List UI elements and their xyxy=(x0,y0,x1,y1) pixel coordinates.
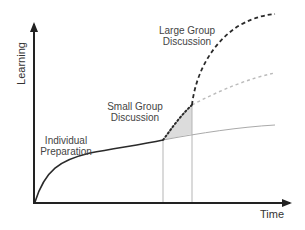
large-group-discussion-label: Large Group Discussion xyxy=(156,25,218,47)
y-axis-label: Learning xyxy=(16,39,27,89)
large-group-discussion-label-line1: Large Group xyxy=(156,25,218,36)
learning-over-time-diagram: Learning Time Individual Preparation Sma… xyxy=(0,0,305,230)
x-axis-label: Time xyxy=(252,209,292,220)
individual-preparation-label-line1: Individual xyxy=(36,135,96,146)
shaded-gain-region xyxy=(163,105,192,140)
small-group-discussion-label-line1: Small Group xyxy=(104,101,166,112)
individual-preparation-label-line2: Preparation xyxy=(36,146,96,157)
small-group-discussion-label-line2: Discussion xyxy=(104,112,166,123)
small-group-projection-curve xyxy=(192,73,275,105)
large-group-discussion-label-line2: Discussion xyxy=(156,36,218,47)
individual-preparation-label: Individual Preparation xyxy=(36,135,96,157)
small-group-discussion-label: Small Group Discussion xyxy=(104,101,166,123)
